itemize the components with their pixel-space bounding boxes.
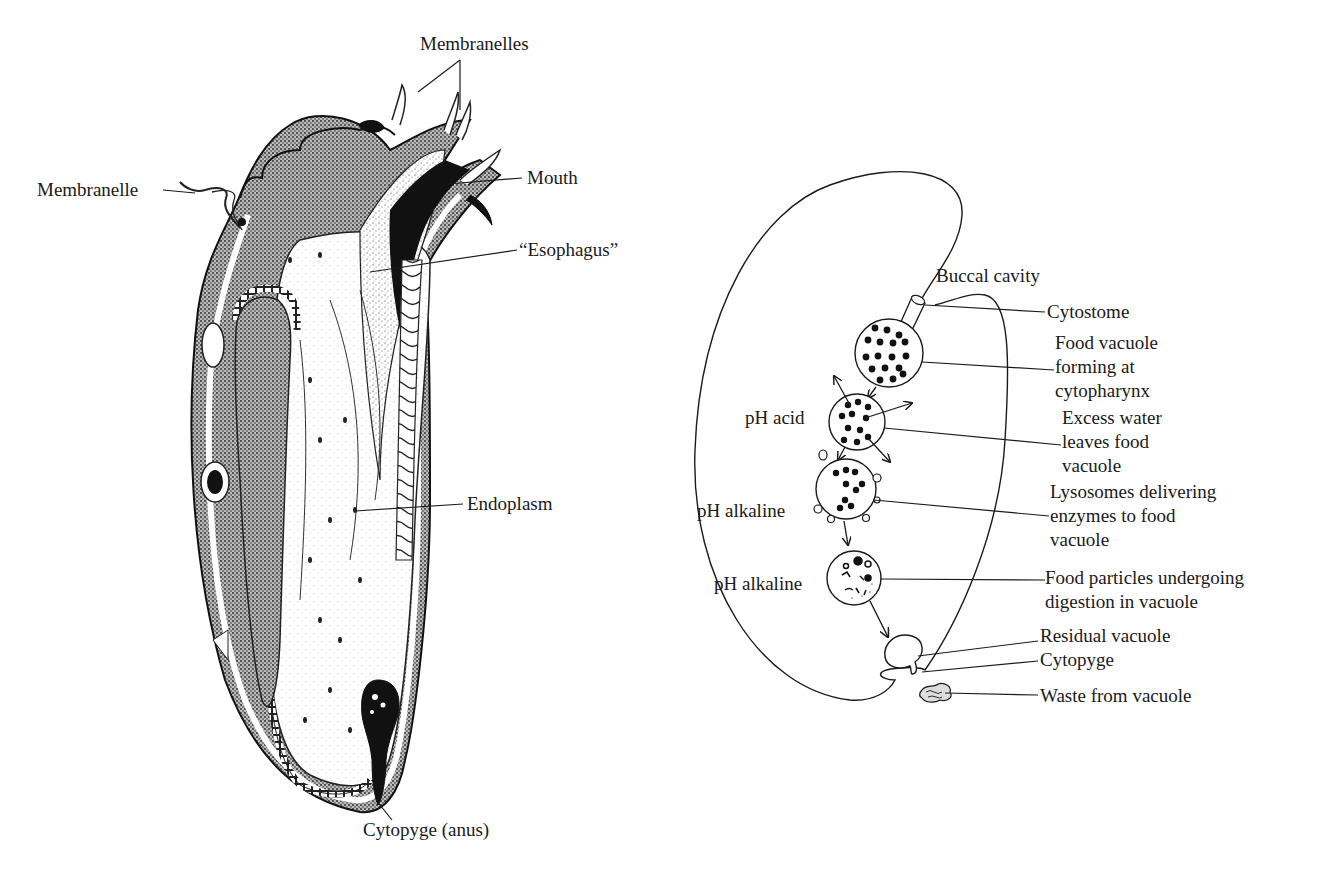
label-residual-vacuole: Residual vacuole (1040, 624, 1170, 648)
label-buccal-cavity: Buccal cavity (936, 264, 1040, 288)
label-ph-alkaline-2: pH alkaline (714, 572, 802, 596)
label-mouth: Mouth (527, 166, 578, 190)
label-ph-alkaline-1: pH alkaline (697, 499, 785, 523)
label-food-vacuole-forming: Food vacuole forming at cytopharynx (1055, 331, 1158, 403)
label-membranelles: Membranelles (420, 32, 529, 56)
label-lysosomes: Lysosomes delivering enzymes to food vac… (1050, 480, 1216, 552)
vacuole-pathway-illustration (695, 172, 1008, 703)
label-endoplasm: Endoplasm (467, 492, 553, 516)
label-waste: Waste from vacuole (1040, 684, 1191, 708)
label-ph-acid: pH acid (745, 406, 805, 430)
label-cytopyge: Cytopyge (1040, 648, 1114, 672)
label-food-particles: Food particles undergoing digestion in v… (1045, 566, 1244, 614)
label-membranelle: Membranelle (37, 178, 138, 202)
label-esophagus: “Esophagus” (519, 238, 618, 262)
residual-vacuole (885, 635, 922, 674)
ciliate-body-illustration (180, 85, 500, 812)
label-cytostome: Cytostome (1047, 300, 1129, 324)
contractile-vacuole (202, 323, 224, 367)
label-cytopyge-anus: Cytopyge (anus) (363, 818, 489, 842)
label-excess-water: Excess water leaves food vacuole (1062, 406, 1162, 478)
